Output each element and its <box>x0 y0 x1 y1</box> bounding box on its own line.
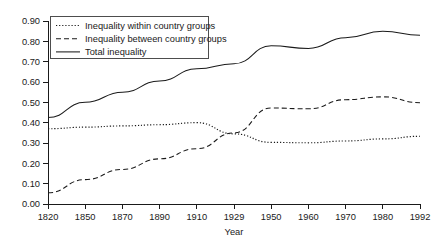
series-line-dotted <box>48 123 420 143</box>
x-tick-label: 1910 <box>186 212 207 222</box>
x-tick-label: 1929 <box>224 212 245 222</box>
y-tick-label: 0.60 <box>22 77 40 87</box>
x-tick-label: 1870 <box>112 212 133 222</box>
x-tick-label: 1960 <box>298 212 319 222</box>
line-chart: 0.000.100.200.300.400.500.600.700.800.90… <box>0 0 444 248</box>
x-axis: 1820185018701890191019291950196019701980… <box>38 204 431 222</box>
x-tick-label: 1950 <box>261 212 282 222</box>
chart-container: 0.000.100.200.300.400.500.600.700.800.90… <box>0 0 444 248</box>
legend-label: Inequality between country groups <box>85 34 227 44</box>
y-tick-label: 0.90 <box>22 16 40 26</box>
y-axis: 0.000.100.200.300.400.500.600.700.800.90 <box>22 16 48 209</box>
y-tick-label: 0.10 <box>22 179 40 189</box>
x-tick-label: 1970 <box>335 212 356 222</box>
y-tick-label: 0.50 <box>22 98 40 108</box>
y-tick-label: 0.20 <box>22 159 40 169</box>
y-tick-label: 0.00 <box>22 199 40 209</box>
y-tick-label: 0.40 <box>22 118 40 128</box>
x-tick-label: 1992 <box>410 212 431 222</box>
x-axis-title: Year <box>225 227 244 237</box>
series-line-dashed <box>48 97 420 193</box>
x-tick-label: 1850 <box>75 212 96 222</box>
legend-label: Inequality within country groups <box>85 21 216 31</box>
legend-label: Total inequality <box>85 47 147 57</box>
x-tick-label: 1980 <box>372 212 393 222</box>
y-tick-label: 0.80 <box>22 37 40 47</box>
x-tick-label: 1820 <box>38 212 59 222</box>
y-tick-label: 0.70 <box>22 57 40 67</box>
y-tick-label: 0.30 <box>22 138 40 148</box>
chart-legend: Inequality within country groupsInequali… <box>50 16 227 58</box>
x-tick-label: 1890 <box>149 212 170 222</box>
